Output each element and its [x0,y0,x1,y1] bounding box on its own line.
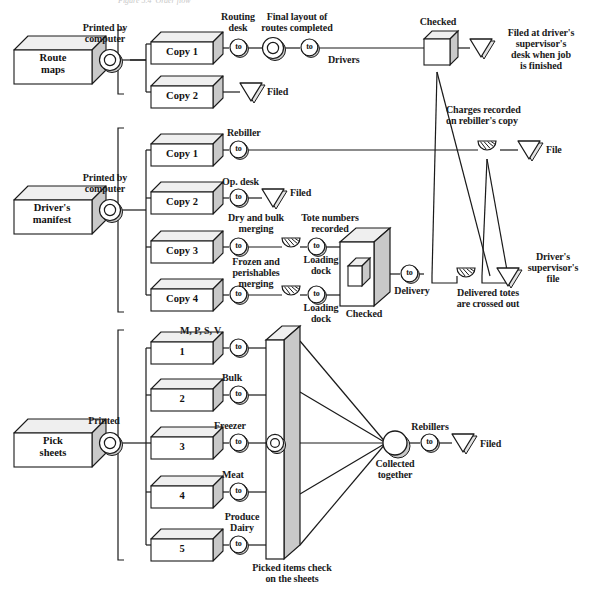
op-text-rebiller: to [229,144,248,153]
op-text-dry-bulk: to [229,241,248,250]
storage-icon-route-copy2-filed [240,83,265,103]
source-label-route-maps: Route maps [14,52,92,76]
storage-icon-pick-filed [452,434,477,454]
storage-icon-route-filed-supervisor [470,39,495,59]
storage-icon-file [518,141,543,161]
op-text-drivers: to [300,42,319,51]
op-text-delivery: to [400,268,419,277]
inspection-icon-final-layout [263,38,286,61]
label-checked-manifest: Checked [336,308,392,319]
label-picked-items-check: Picked items check on the sheets [222,562,362,584]
delay-icon-delivered-totes [457,268,475,277]
label-loading-dock-1: Loading dock [294,254,348,276]
op-text-loading-dock-2: to [307,289,326,298]
op-text-routing-desk: to [229,42,248,51]
source-label-drivers-manifest: Driver's manifest [12,202,92,226]
doc-label-pick-1: 1 [151,346,213,358]
label-route-copy2-filed: Filed [267,86,307,97]
storage-icon-op-desk-filed [262,189,287,209]
doc-label-manifest-copy-4: Copy 4 [151,293,213,305]
op-text-pick-3: to [229,437,248,446]
op-text-frozen: to [229,289,248,298]
label-pick-op-5: Produce Dairy [212,511,272,533]
label-supervisor-file: Driver's supervisor's file [518,251,588,284]
doc-label-manifest-copy-2: Copy 2 [151,196,213,208]
doc-label-route-copy-2: Copy 2 [151,90,213,102]
source-label-pick-sheets: Pick sheets [14,435,92,459]
label-tote-numbers-recorded: Tote numbers recorded [291,212,369,234]
op-text-rebillers: to [420,437,439,446]
label-delivered-totes: Delivered totes are crossed out [437,287,539,309]
doc-label-pick-3: 3 [151,441,213,453]
doc-label-manifest-copy-1: Copy 1 [151,148,213,160]
label-pick-op-4: Meat [222,469,274,480]
label-file: File [546,144,582,155]
op-text-pick-2: to [229,389,248,398]
label-rebiller: Rebiller [227,127,287,138]
doc-label-manifest-copy-3: Copy 3 [151,245,213,257]
label-charges-recorded: Charges recorded on rebiller's copy [446,104,566,126]
label-drivers: Drivers [328,54,388,65]
doc-label-route-copy-1: Copy 1 [151,46,213,58]
operation-icon-collected-together [383,431,410,458]
label-checked-route: Checked [410,16,466,27]
delay-icon-charges-recorded [478,141,496,150]
op-text-pick-1: to [229,342,248,351]
op-text-pick-4: to [229,486,248,495]
op-label-pick-sheets: Printed [76,415,132,426]
doc-label-pick-2: 2 [151,393,213,405]
label-pick-filed: Filed [480,438,520,449]
op-text-pick-5: to [229,539,248,548]
label-dry-bulk-merging: Dry and bulk merging [215,212,297,234]
label-op-desk-filed: Filed [290,187,330,198]
op-label-route-maps: Printed by computer [72,22,138,44]
label-final-layout: Final layout of routes completed [252,11,342,33]
op-text-tote-numbers: to [307,241,326,250]
flowchart-diagram: Figure 5.4 Order flow [0,0,590,598]
label-pick-op-2: Bulk [222,372,274,383]
doc-label-pick-4: 4 [151,490,213,502]
label-frozen-perishables-merging: Frozen and perishables merging [216,256,296,289]
label-pick-op-1: M, P, S, V [180,325,252,336]
label-rebillers: Rebillers [404,421,456,432]
label-collected-together: Collected together [362,458,428,480]
op-text-op-desk: to [229,192,248,201]
doc-label-pick-5: 5 [151,543,213,555]
delay-icon-loading-dock-1 [282,238,300,247]
label-pick-op-3: Freezer [214,420,274,431]
transport-icon-checked-route [424,31,458,65]
op-label-drivers-manifest: Printed by computer [72,172,138,194]
label-op-desk: Op. desk [222,176,278,187]
label-delivery: Delivery [386,285,438,296]
label-filed-supervisor-desk: Filed at driver's supervisor's desk when… [495,27,587,71]
